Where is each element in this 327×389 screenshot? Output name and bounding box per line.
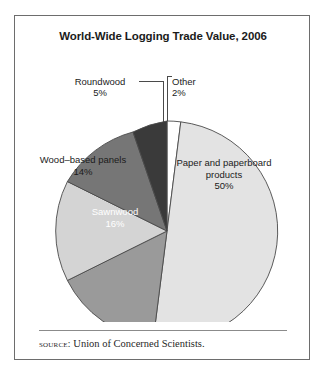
chart-title: World-Wide Logging Trade Value, 2006	[15, 30, 311, 42]
slice-label-sawnwood-label: Sawnwood	[92, 206, 138, 217]
callout-other-label: Other	[172, 76, 196, 87]
callout-roundwood-percent: 5%	[63, 87, 137, 98]
source-note: source: Union of Concerned Scientists.	[39, 338, 299, 349]
slice-label-paper-percent: 50%	[161, 180, 287, 192]
slice-label-wood-based-panels: Wood–based panels 14%	[15, 154, 151, 177]
figure-root: World-Wide Logging Trade Value, 2006	[0, 0, 327, 389]
slice-label-paper-and-paperboard-products: Paper and paperboard products 50%	[161, 157, 287, 192]
slice-label-panels-percent: 14%	[15, 166, 151, 178]
callout-other: Other 2%	[172, 76, 232, 98]
callout-roundwood-label: Roundwood	[75, 76, 126, 87]
callout-roundwood: Roundwood 5%	[63, 76, 137, 98]
leader-lines	[139, 76, 172, 128]
slice-label-panels-label: Wood–based panels	[40, 154, 126, 165]
figure-frame: World-Wide Logging Trade Value, 2006	[14, 15, 310, 360]
source-text: Union of Concerned Scientists.	[71, 338, 205, 349]
slice-label-pulp: Pulp 13%	[59, 106, 121, 129]
leader-line-roundwood	[139, 81, 163, 128]
callout-other-percent: 2%	[172, 87, 232, 98]
pie-chart-plot-area: Roundwood 5% Other 2% Paper and paperboa…	[15, 54, 311, 322]
slice-label-pulp-label: Pulp	[80, 106, 99, 117]
source-kicker: source:	[39, 339, 71, 349]
source-divider	[39, 330, 287, 331]
slice-label-sawnwood: Sawnwood 16%	[65, 206, 165, 229]
slice-label-paper-line2: products	[161, 169, 287, 181]
slice-label-pulp-percent: 13%	[59, 118, 121, 130]
slice-label-paper-line1: Paper and paperboard	[176, 157, 271, 168]
slice-label-sawnwood-percent: 16%	[65, 218, 165, 230]
